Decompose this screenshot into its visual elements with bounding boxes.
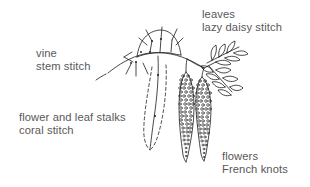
diagram-page: leaves lazy daisy stitch vine stem stitc… — [0, 0, 310, 187]
label-flowers-line1: flowers — [222, 150, 288, 163]
french-knot-catkin-right — [196, 77, 212, 161]
vine-stem-curve — [108, 53, 216, 73]
vine-leader-line — [96, 74, 106, 80]
dome-arc-with-radiating-stitch-ticks — [137, 27, 183, 57]
label-vine-line2: stem stitch — [36, 60, 91, 73]
leaf-sprig-upper — [207, 41, 248, 65]
label-flowers-line2: French knots — [222, 163, 288, 176]
label-vine-line1: vine — [36, 47, 91, 60]
stem-stitch-ticks — [124, 52, 148, 76]
label-vine: vine stem stitch — [36, 47, 91, 74]
french-knot-catkin-left — [179, 72, 195, 162]
label-stalks-line1: flower and leaf stalks — [19, 111, 126, 124]
leaf-sprig-lower — [201, 66, 243, 96]
label-leaves-line1: leaves — [202, 8, 282, 21]
label-stalks-line2: coral stitch — [19, 124, 126, 137]
catkin-stalks — [186, 59, 204, 77]
label-flowers: flowers French knots — [222, 150, 288, 177]
label-leaves: leaves lazy daisy stitch — [202, 8, 282, 35]
dashed-outline-catkin — [144, 56, 167, 150]
label-stalks: flower and leaf stalks coral stitch — [19, 111, 126, 138]
label-leaves-line2: lazy daisy stitch — [202, 21, 282, 34]
